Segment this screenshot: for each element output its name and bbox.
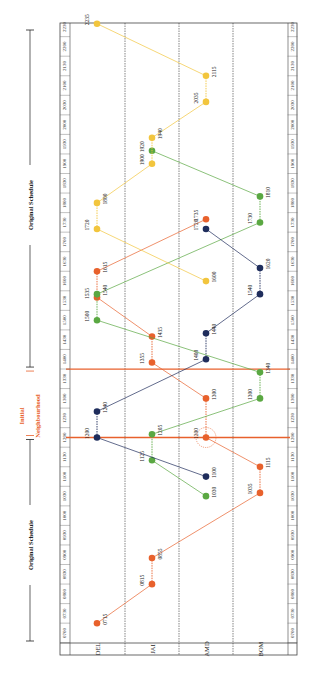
tick-label: 1930 bbox=[290, 139, 295, 150]
stop-marker bbox=[149, 359, 156, 366]
train-segment bbox=[97, 297, 152, 336]
tick-label: 1000 bbox=[290, 510, 295, 521]
stop-marker bbox=[257, 490, 264, 497]
stop-time-label: 1720 bbox=[193, 219, 199, 230]
train-segment bbox=[97, 320, 260, 372]
stop-time-label: 1440 bbox=[211, 323, 217, 334]
stop-time-label: 1435 bbox=[157, 327, 163, 338]
train-segment bbox=[152, 493, 260, 558]
tick-label: 1330 bbox=[62, 373, 67, 384]
tick-label: 1530 bbox=[62, 295, 67, 306]
stop-time-label: 1730 bbox=[247, 213, 253, 224]
station-label-del: DEL bbox=[94, 643, 101, 656]
stop-time-label: 0815 bbox=[139, 574, 145, 585]
stop-marker bbox=[94, 226, 101, 233]
schedule-chart: DELJAIAMDBOM 070007000730073008000800083… bbox=[0, 0, 314, 682]
train-segment bbox=[97, 24, 206, 76]
stop-time-label: 0715 bbox=[102, 613, 108, 624]
stop-marker bbox=[94, 200, 101, 207]
tick-label: 0700 bbox=[62, 628, 67, 639]
stop-marker bbox=[94, 434, 101, 441]
tick-label: 0700 bbox=[290, 628, 295, 639]
stop-time-label: 1125 bbox=[139, 451, 145, 462]
stop-marker bbox=[257, 395, 264, 402]
stop-time-label: 0855 bbox=[157, 548, 163, 559]
stop-time-label: 1340 bbox=[265, 363, 271, 374]
tick-label: 1430 bbox=[290, 334, 295, 345]
annotations: Original Schedule Original Schedule Init… bbox=[18, 30, 216, 641]
stop-marker bbox=[94, 291, 101, 298]
stop-marker bbox=[257, 219, 264, 226]
tick-label: 1300 bbox=[62, 393, 67, 404]
stop-marker bbox=[203, 99, 210, 106]
tick-label: 1500 bbox=[62, 315, 67, 326]
stop-time-label: 1540 bbox=[102, 284, 108, 295]
stop-marker bbox=[94, 268, 101, 275]
station-label-amd: AMD bbox=[203, 641, 210, 656]
tick-label: 1430 bbox=[62, 334, 67, 345]
stop-marker bbox=[203, 330, 210, 337]
train-series-2: 1030112512051300134015001540173018101920 bbox=[84, 141, 271, 499]
stop-time-label: 1735 bbox=[193, 209, 199, 220]
stop-time-label: 1500 bbox=[84, 310, 90, 321]
tick-label: 0900 bbox=[62, 549, 67, 560]
tick-label: 1400 bbox=[290, 354, 295, 365]
stop-time-label: 1200 bbox=[84, 428, 90, 439]
station-label-jai: JAI bbox=[149, 644, 156, 653]
tick-label: 2000 bbox=[62, 119, 67, 130]
tick-label: 1600 bbox=[62, 276, 67, 287]
tick-label: 2200 bbox=[62, 41, 67, 52]
tick-label: 2100 bbox=[290, 80, 295, 91]
stop-marker bbox=[203, 216, 210, 223]
stop-time-label: 1240 bbox=[102, 402, 108, 413]
tick-label: 1530 bbox=[290, 295, 295, 306]
stop-time-label: 1940 bbox=[157, 128, 163, 139]
stop-time-label: 1620 bbox=[265, 258, 271, 269]
stop-time-label: 1810 bbox=[265, 187, 271, 198]
stop-marker bbox=[94, 20, 101, 27]
stop-time-label: 1900 bbox=[139, 154, 145, 165]
stop-marker bbox=[203, 226, 210, 233]
tick-label: 2000 bbox=[290, 119, 295, 130]
tick-label: 1300 bbox=[290, 393, 295, 404]
tick-label: 1500 bbox=[290, 315, 295, 326]
stop-marker bbox=[149, 161, 156, 168]
stop-time-label: 1800 bbox=[102, 193, 108, 204]
tick-label: 1800 bbox=[62, 197, 67, 208]
neighbourhood-label-line1: Initial bbox=[18, 407, 25, 424]
stop-marker bbox=[94, 620, 101, 627]
stop-marker bbox=[257, 291, 264, 298]
time-axis-ticks: 0700070007300730080008000830083009000900… bbox=[60, 21, 298, 642]
stop-time-label: 1920 bbox=[139, 141, 145, 152]
stop-marker bbox=[257, 369, 264, 376]
stop-time-label: 1720 bbox=[84, 219, 90, 230]
tick-label: 1130 bbox=[290, 452, 295, 462]
tick-label: 1230 bbox=[62, 412, 67, 423]
stop-marker bbox=[203, 278, 210, 285]
tick-label: 1900 bbox=[62, 158, 67, 169]
tick-label: 1330 bbox=[290, 373, 295, 384]
tick-label: 2030 bbox=[290, 100, 295, 111]
stop-marker bbox=[203, 356, 210, 363]
stop-marker bbox=[257, 193, 264, 200]
tick-label: 1100 bbox=[290, 471, 295, 481]
stop-time-label: 1600 bbox=[211, 271, 217, 282]
outer-border bbox=[60, 23, 297, 655]
stop-marker bbox=[149, 134, 156, 141]
tick-label: 2230 bbox=[62, 21, 67, 32]
tick-label: 1600 bbox=[290, 276, 295, 287]
stop-time-label: 1355 bbox=[139, 353, 145, 364]
tick-label: 0800 bbox=[62, 588, 67, 599]
stop-marker bbox=[203, 395, 210, 402]
tick-label: 1400 bbox=[62, 354, 67, 365]
stop-time-label: 1035 bbox=[247, 483, 253, 494]
tick-label: 0930 bbox=[290, 530, 295, 541]
tick-label: 1700 bbox=[62, 237, 67, 248]
train-segment bbox=[97, 229, 206, 281]
stop-time-label: 1205 bbox=[157, 424, 163, 435]
train-segment bbox=[97, 438, 206, 477]
tick-label: 0830 bbox=[290, 569, 295, 580]
tick-label: 1000 bbox=[62, 510, 67, 521]
train-segment bbox=[97, 219, 206, 271]
train-segment bbox=[152, 151, 260, 197]
